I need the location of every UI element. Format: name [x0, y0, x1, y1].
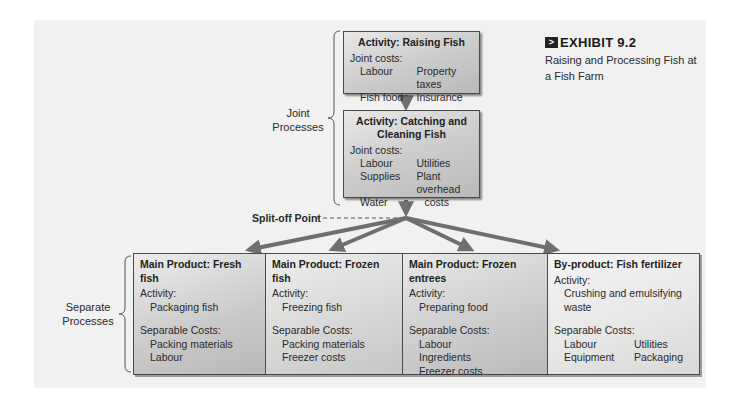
activity-title: Activity: Catching and Cleaning Fish	[350, 115, 473, 141]
cost-item: Labour	[360, 65, 417, 91]
product-title: Main Product: Frozen entrees	[409, 258, 541, 285]
cost-item: Plant overhead	[417, 170, 474, 196]
product-fresh-fish-box: Main Product: Fresh fish Activity: Packa…	[133, 253, 266, 375]
activity-value: Packaging fish	[140, 301, 259, 315]
joint-processes-label: Joint Processes	[268, 106, 328, 134]
activity-value: Preparing food	[409, 301, 541, 315]
cost-item: costs	[417, 196, 474, 209]
product-frozen-fish-box: Main Product: Frozen fish Activity: Free…	[265, 253, 403, 375]
cost-item: Property taxes	[417, 65, 474, 91]
activity-value: Crushing and emulsifying waste	[554, 287, 689, 314]
cost-item: Insurance	[417, 91, 474, 104]
separate-brace	[119, 256, 131, 372]
cost-item: Packing materials	[140, 338, 259, 352]
cost-item: Freezer costs	[409, 365, 541, 379]
cost-item: Labour	[564, 338, 634, 352]
costs-list: Labour Utilities Supplies Plant overhead…	[350, 157, 473, 209]
activity-catching-cleaning-box: Activity: Catching and Cleaning Fish Joi…	[343, 110, 480, 198]
byproduct-fish-fertilizer-box: By-product: Fish fertilizer Activity: Cr…	[547, 253, 700, 375]
split-off-point-label: Split-off Point	[252, 211, 322, 225]
costs-label: Joint costs:	[350, 144, 473, 157]
cost-item: Equipment	[564, 351, 634, 365]
costs-label: Separable Costs:	[554, 324, 693, 338]
activity-title: Activity: Raising Fish	[350, 36, 473, 49]
joint-brace	[328, 31, 340, 205]
cost-item: Labour	[140, 351, 259, 365]
activity-raising-fish-box: Activity: Raising Fish Joint costs: Labo…	[343, 31, 480, 94]
separate-processes-label: Separate Processes	[58, 300, 118, 328]
cost-item: Labour	[409, 338, 541, 352]
cost-item: Labour	[360, 157, 417, 170]
cost-item: Utilities	[417, 157, 474, 170]
costs-list: Labour Property taxes Fish food Insuranc…	[350, 65, 473, 104]
cost-item: Packaging	[634, 351, 693, 365]
product-title: Main Product: Fresh fish	[140, 258, 259, 285]
cost-item: Freezer costs	[272, 351, 396, 365]
costs-label: Separable Costs:	[409, 324, 541, 338]
cost-item: Utilities	[634, 338, 693, 352]
product-title: By-product: Fish fertilizer	[554, 258, 693, 272]
costs-label: Joint costs:	[350, 52, 473, 65]
cost-item: Packing materials	[272, 338, 396, 352]
cost-item: Fish food	[360, 91, 417, 104]
costs-list: Labour Utilities Equipment Packaging	[554, 338, 693, 365]
activity-label: Activity:	[409, 287, 541, 301]
activity-label: Activity:	[272, 287, 396, 301]
activity-value: Freezing fish	[272, 301, 396, 315]
product-frozen-entrees-box: Main Product: Frozen entrees Activity: P…	[402, 253, 548, 375]
costs-label: Separable Costs:	[140, 324, 259, 338]
costs-label: Separable Costs:	[272, 324, 396, 338]
cost-item: Supplies	[360, 170, 417, 196]
cost-item: Water	[360, 196, 417, 209]
activity-label: Activity:	[554, 274, 693, 288]
activity-label: Activity:	[140, 287, 259, 301]
product-title: Main Product: Frozen fish	[272, 258, 396, 285]
cost-item: Ingredients	[409, 351, 541, 365]
